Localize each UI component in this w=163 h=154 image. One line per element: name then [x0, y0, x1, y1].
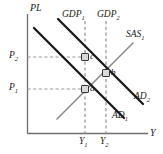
y-axis-title: PL	[30, 3, 42, 13]
equilibrium-point-a-label: a	[90, 84, 95, 93]
x-tick-label-y1: Y1	[79, 137, 88, 148]
ad-as-macroeconomic-diagram: PL Y GDP1 GDP2 SAS1 AD2 AD1 P2 P1 Y1 Y2 …	[0, 0, 163, 154]
x-axis-title-text: Y	[150, 127, 156, 138]
equilibrium-point-c-marker	[82, 54, 89, 61]
p1-label-sub: 1	[15, 87, 18, 94]
ad2-curve-label: AD2	[134, 92, 150, 103]
y1-label-sub: 1	[84, 141, 87, 148]
ad2-label-sub: 2	[147, 96, 150, 103]
gdp2-label-base: GDP	[97, 9, 117, 19]
gdp1-label: GDP1	[62, 10, 85, 21]
x-axis-title: Y	[150, 128, 156, 138]
y-tick-label-p1: P1	[9, 83, 18, 94]
p2-label-sub: 2	[15, 55, 18, 62]
equilibrium-point-a-marker	[82, 86, 89, 93]
sas1-label-sub: 1	[141, 34, 144, 41]
gdp2-label-sub: 2	[117, 14, 120, 21]
chart-canvas	[0, 0, 163, 154]
sas1-label-base: SAS	[126, 29, 141, 39]
ad1-label-sub: 1	[125, 115, 128, 122]
gdp1-label-sub: 1	[82, 14, 85, 21]
y2-label-sub: 2	[105, 141, 108, 148]
y-tick-label-p2: P2	[9, 51, 18, 62]
ad2-label-base: AD	[134, 91, 147, 101]
gdp2-label: GDP2	[97, 10, 120, 21]
gdp1-label-base: GDP	[62, 9, 82, 19]
equilibrium-point-b-label: b	[111, 68, 116, 77]
y-axis-title-text: PL	[30, 2, 42, 13]
sas1-curve-label: SAS1	[126, 30, 145, 41]
equilibrium-point-c-label: c	[90, 52, 94, 61]
ad1-label-base: AD	[112, 110, 125, 120]
x-tick-label-y2: Y2	[100, 137, 109, 148]
ad1-curve-label: AD1	[112, 111, 128, 122]
equilibrium-point-b-marker	[103, 70, 110, 77]
